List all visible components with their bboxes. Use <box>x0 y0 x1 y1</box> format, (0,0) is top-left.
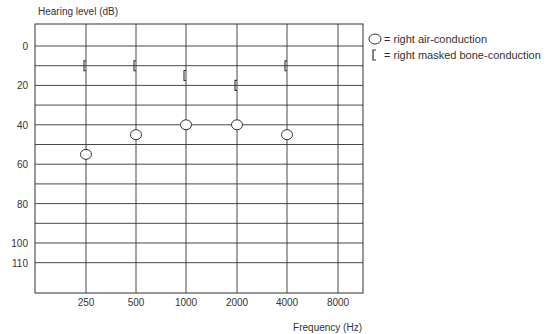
legend: = right air-conduction = right masked bo… <box>368 31 541 63</box>
legend-label: = right masked bone-conduction <box>384 47 541 63</box>
x-tick-label: 8000 <box>327 297 350 308</box>
y-tick-label: 0 <box>22 41 28 52</box>
air-conduction-marker <box>131 130 142 140</box>
x-tick-label: 500 <box>128 297 145 308</box>
air-conduction-marker <box>282 130 293 140</box>
bracket-marker-icon <box>368 48 382 62</box>
y-axis-title: Hearing level (dB) <box>38 6 118 17</box>
y-tick-label: 80 <box>17 199 29 210</box>
legend-item-bone: = right masked bone-conduction <box>368 47 541 63</box>
air-conduction-marker <box>181 120 192 130</box>
y-tick-label: 110 <box>12 258 28 269</box>
y-tick-label: 100 <box>11 238 28 249</box>
y-tick-labels: 020406080100110 <box>11 41 28 269</box>
x-tick-label: 2000 <box>226 297 249 308</box>
x-tick-label: 250 <box>78 297 95 308</box>
x-tick-label: 4000 <box>276 297 299 308</box>
legend-label: = right air-conduction <box>384 31 487 47</box>
air-conduction-marker <box>232 120 243 130</box>
y-tick-label: 40 <box>17 120 29 131</box>
x-tick-label: 1000 <box>175 297 198 308</box>
air-conduction-marker <box>81 149 92 159</box>
x-axis-title: Frequency (Hz) <box>293 322 362 333</box>
y-tick-label: 20 <box>17 80 29 91</box>
x-tick-labels: 2505001000200040008000 <box>78 297 350 308</box>
legend-item-air: = right air-conduction <box>368 31 541 47</box>
circle-marker-icon <box>368 32 382 46</box>
y-tick-label: 60 <box>17 159 29 170</box>
